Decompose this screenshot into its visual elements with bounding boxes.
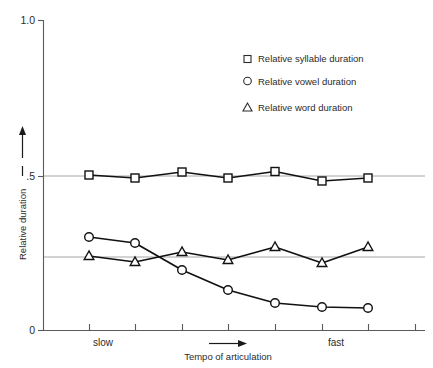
x-axis-title-group: Tempo of articulation [184,340,272,362]
legend-item-syllable[interactable]: Relative syllable duration [244,53,364,64]
data-point-marker [270,242,280,251]
y-tick-label-1: 1.0 [20,14,35,26]
line-chart-svg: 1.0 .5 0 Relative duration slow fas [0,0,433,368]
data-point-marker [271,168,279,176]
data-point-marker [131,174,139,182]
data-point-marker [363,242,373,251]
data-point-marker [318,177,326,185]
x-tick-label-slow: slow [93,337,114,348]
chart-legend: Relative syllable duration Relative vowe… [243,53,364,113]
data-point-marker [84,251,94,260]
data-point-marker [85,233,94,242]
data-point-marker [85,171,93,179]
data-point-marker [177,247,187,256]
legend-item-vowel[interactable]: Relative vowel duration [244,76,357,87]
data-point-marker [364,304,373,313]
data-point-marker [178,168,186,176]
right-arrow-icon [209,340,247,347]
data-point-marker [364,174,372,182]
y-axis: 1.0 .5 0 [20,14,43,336]
y-tick-label-half: .5 [26,170,35,182]
up-arrow-icon [19,126,26,158]
triangle-marker-icon [243,103,252,111]
series-word [84,242,373,267]
y-tick-label-zero: 0 [29,324,35,336]
x-axis: slow fast [43,324,425,348]
chart-container: 1.0 .5 0 Relative duration slow fas [0,0,433,368]
data-point-marker [271,299,280,308]
x-tick-label-fast: fast [328,337,344,348]
data-point-marker [178,266,187,275]
legend-label: Relative vowel duration [258,76,356,87]
legend-label: Relative word duration [258,102,353,113]
series-vowel-line [89,237,368,308]
data-point-marker [224,286,233,295]
data-point-marker [224,174,232,182]
legend-label: Relative syllable duration [258,53,364,64]
y-axis-title: Relative duration [17,189,28,260]
y-axis-title-group: Relative duration [17,126,28,260]
data-point-marker [131,239,140,248]
x-axis-title: Tempo of articulation [184,351,272,362]
legend-item-word[interactable]: Relative word duration [243,102,353,113]
circle-marker-icon [244,77,252,85]
series-vowel [85,233,373,313]
square-marker-icon [244,56,251,63]
data-point-marker [318,303,327,312]
